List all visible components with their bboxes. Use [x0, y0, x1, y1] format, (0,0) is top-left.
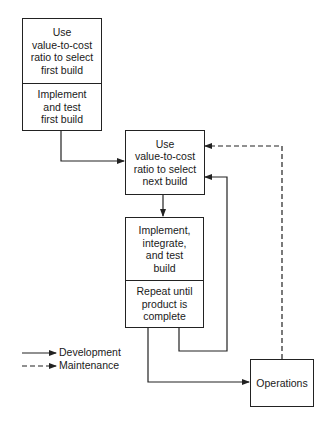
arrow-first-to-next [61, 130, 124, 161]
operations-box: Operations [250, 359, 314, 407]
arrow-implement-to-operations [148, 327, 249, 382]
implement-build-box: Implement, integrate, and test build Rep… [125, 217, 204, 328]
legend-maintenance-label: Maintenance [59, 359, 119, 372]
legend: Development Maintenance [59, 346, 121, 372]
select-next-build-text: Use value-to-cost ratio to select next b… [126, 131, 204, 194]
legend-development: Development [59, 346, 121, 359]
first-build-box: Use value-to-cost ratio to select first … [22, 18, 102, 131]
legend-maintenance: Maintenance [59, 359, 121, 372]
select-first-build-text: Use value-to-cost ratio to select first … [23, 19, 101, 83]
arrow-maintenance-feedback [205, 146, 282, 359]
implement-first-build-text: Implement and test first build [23, 83, 101, 130]
implement-integrate-text: Implement, integrate, and test build [126, 218, 203, 280]
next-build-box: Use value-to-cost ratio to select next b… [125, 130, 205, 195]
operations-text: Operations [251, 360, 313, 406]
repeat-until-text: Repeat until product is complete [126, 280, 203, 327]
legend-development-label: Development [59, 346, 121, 359]
